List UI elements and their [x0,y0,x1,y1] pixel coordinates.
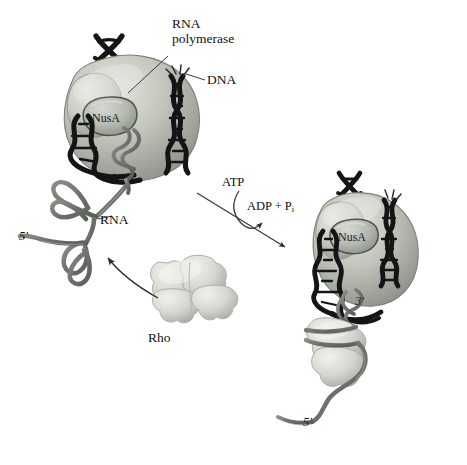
diagram-artwork [0,0,467,465]
rho-bound-lobe-2 [312,347,365,387]
label-five-prime-right: 5′ [303,415,312,429]
right-terminated-complex [278,173,418,425]
leader-dna [186,74,205,80]
label-rna-polymerase: RNA polymerase [172,16,234,46]
label-pi-subscript: i [292,204,294,214]
label-rna: RNA [100,212,129,227]
label-adp-pi: ADP + Pi [247,199,294,213]
label-dna: DNA [207,72,236,87]
rho-subunit-4 [192,285,238,320]
figure-canvas: RNA polymerase DNA RNA Rho ATP ADP + Pi … [0,0,467,465]
rho-hexamer-free [151,255,238,323]
label-nusa-left: NusA [92,112,120,125]
label-five-prime-left: 5′ [19,229,28,243]
label-nusa-right: NusA [338,231,366,244]
label-rho: Rho [148,330,171,345]
label-adp-pi-text: ADP + P [247,199,292,213]
left-elongation-complex [20,36,199,284]
rho-binding-arrow [108,258,158,298]
label-three-prime: 3′ [355,294,364,308]
label-atp: ATP [222,175,244,189]
rna-transcript-left [20,182,126,284]
